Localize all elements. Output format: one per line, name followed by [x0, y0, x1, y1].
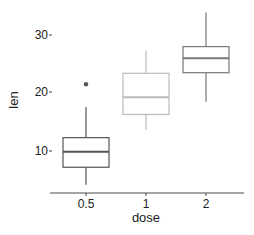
boxes — [63, 12, 229, 184]
y-tick-label-30: 30 — [35, 28, 49, 42]
x-axis-title: dose — [132, 210, 160, 225]
iqr-box — [183, 47, 229, 73]
x-tick-label-0.5: 0.5 — [78, 197, 95, 211]
outlier-point — [84, 82, 88, 86]
box-group-1 — [123, 51, 169, 130]
y-axis-title: len — [6, 91, 21, 108]
y-axis: 10 20 30 len — [6, 28, 52, 158]
x-tick-label-2: 2 — [203, 197, 210, 211]
box-group-2 — [183, 12, 229, 101]
box-plot: 10 20 30 len 0.5 1 2 dose — [0, 0, 254, 235]
box-group-0.5 — [63, 82, 109, 185]
x-axis: 0.5 1 2 dose — [50, 193, 244, 225]
y-tick-label-20: 20 — [35, 85, 49, 99]
x-tick-label-1: 1 — [143, 197, 150, 211]
iqr-box — [123, 73, 169, 114]
y-tick-label-10: 10 — [35, 144, 49, 158]
